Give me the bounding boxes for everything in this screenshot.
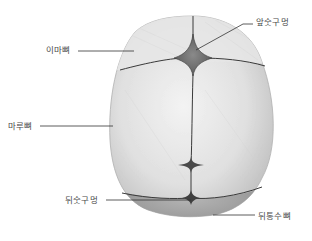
label-parietal-bone: 마루뼈 <box>8 121 33 131</box>
skull-illustration <box>0 0 312 241</box>
label-frontal-bone: 이마뼈 <box>46 45 71 55</box>
skull-diagram: 앞숫구멍 이마뼈 마루뼈 뒤숫구멍 뒤통수뼈 <box>0 0 312 241</box>
label-occipital-bone: 뒤통수뼈 <box>258 211 291 221</box>
label-posterior-fontanelle: 뒤숫구멍 <box>65 195 98 205</box>
label-anterior-fontanelle: 앞숫구멍 <box>256 17 289 27</box>
